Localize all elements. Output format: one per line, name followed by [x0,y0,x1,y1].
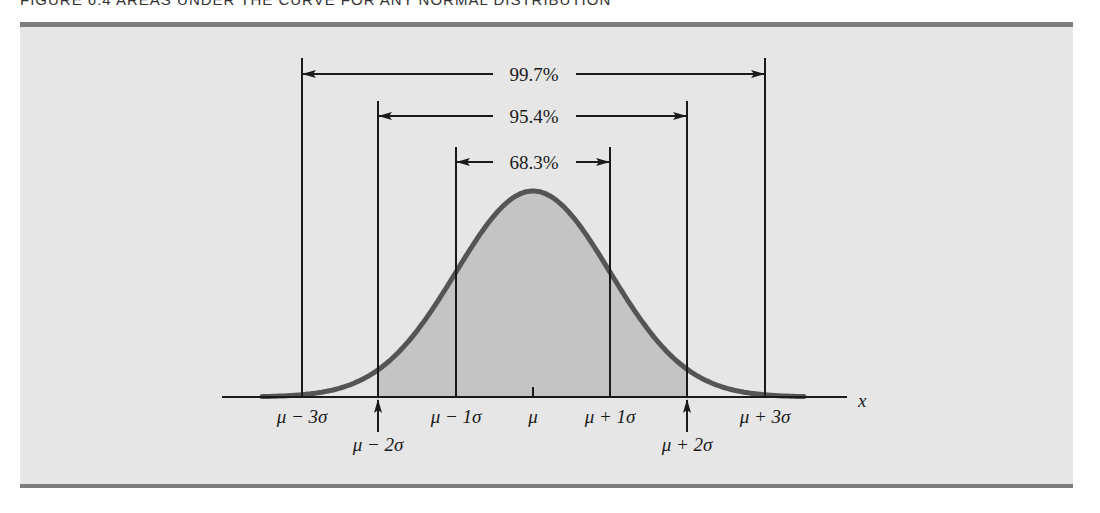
normal-distribution-chart: x 99.7% 95.4% 68.3% μ − 3σ μ − 2σ μ − 1σ… [0,0,1100,513]
label-68-3-percent: 68.3% [509,152,558,173]
label-99-7-percent: 99.7% [509,64,558,85]
tick-label-minus-1-sigma: μ − 1σ [430,406,482,427]
tick-label-minus-2-sigma: μ − 2σ [352,434,404,455]
tick-label-plus-2-sigma: μ + 2σ [661,434,713,455]
tick-label-plus-3-sigma: μ + 3σ [739,406,791,427]
shaded-area [379,191,687,397]
tick-label-mean: μ [527,406,538,427]
tick-label-plus-1-sigma: μ + 1σ [584,406,636,427]
label-95-4-percent: 95.4% [509,106,558,127]
x-axis-label: x [857,390,867,411]
tick-label-minus-3-sigma: μ − 3σ [276,406,328,427]
